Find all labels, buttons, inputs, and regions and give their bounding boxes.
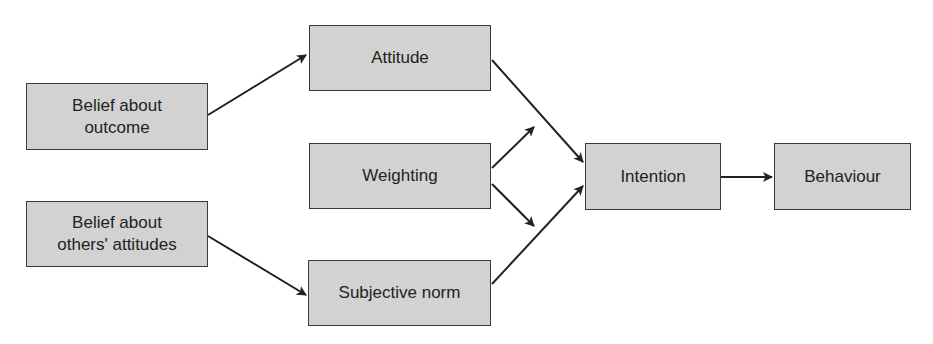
arrow-belief-others-to-subjective-norm — [208, 236, 306, 295]
arrow-weighting-down — [492, 184, 534, 226]
arrow-belief-outcome-to-attitude — [208, 55, 306, 115]
arrow-subjective-norm-to-intention — [492, 186, 583, 284]
theory-of-reasoned-action-diagram: Belief about outcome Belief about others… — [0, 0, 933, 344]
arrow-weighting-up — [492, 127, 534, 168]
node-belief-about-outcome: Belief about outcome — [26, 83, 208, 150]
arrow-attitude-to-intention — [492, 60, 583, 162]
node-weighting: Weighting — [309, 143, 491, 209]
node-intention: Intention — [585, 143, 721, 210]
node-attitude: Attitude — [309, 25, 491, 91]
node-behaviour: Behaviour — [774, 143, 911, 210]
node-belief-about-others-attitudes: Belief about others' attitudes — [26, 201, 208, 267]
node-subjective-norm: Subjective norm — [308, 260, 491, 326]
